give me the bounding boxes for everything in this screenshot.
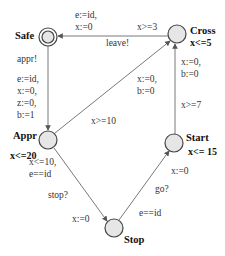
- node-stop: [105, 219, 123, 237]
- label-safe-appr-update-1: e:=id,: [17, 74, 39, 85]
- location-name-start: Start: [186, 132, 209, 143]
- node-start: [165, 134, 183, 152]
- label-appr-cross-guard: x>=10: [91, 116, 116, 127]
- label-start-cross-update-1: x:=0,: [181, 57, 201, 68]
- invariant-cross: x<=5: [190, 37, 211, 48]
- node-safe: [39, 28, 57, 46]
- invariant-start: x<= 15: [188, 146, 217, 157]
- label-appr-cross-update-2: b:=0: [137, 86, 155, 97]
- label-start-cross-update-2: b:=0: [181, 69, 199, 80]
- label-safe-appr-sync: appr!: [17, 54, 37, 65]
- label-cross-safe-guard: x>=3: [137, 22, 157, 33]
- label-cross-safe-update-2: x:=0: [75, 22, 93, 33]
- label-appr-stop-guard-2: e==id: [29, 169, 51, 180]
- label-appr-stop-update: x:=0: [72, 214, 90, 225]
- label-appr-cross-update-1: x:=0,: [137, 74, 157, 85]
- label-safe-appr-update-4: b:=1: [17, 110, 35, 121]
- node-cross: [168, 25, 186, 43]
- label-safe-appr-update-3: z:=0,: [17, 98, 36, 109]
- label-safe-appr-update-2: x:=0,: [17, 86, 37, 97]
- label-start-cross-guard: x>=7: [181, 100, 201, 111]
- edge-appr-to-stop: [54, 148, 107, 221]
- label-cross-safe-sync: leave!: [106, 38, 129, 49]
- label-stop-start-guard: e==id: [139, 208, 161, 219]
- location-name-safe: Safe: [15, 30, 34, 41]
- label-stop-start-sync: go?: [155, 184, 169, 195]
- label-appr-stop-sync: stop?: [48, 190, 68, 201]
- label-cross-safe-update-1: e:=id,: [75, 10, 97, 21]
- location-name-cross: Cross: [190, 25, 215, 36]
- label-stop-start-update: x:=0: [171, 166, 189, 177]
- location-name-appr: Appr: [13, 130, 37, 141]
- location-name-stop: Stop: [124, 234, 144, 245]
- node-appr: [39, 131, 57, 149]
- label-appr-stop-guard-1: x<=10,: [29, 157, 56, 168]
